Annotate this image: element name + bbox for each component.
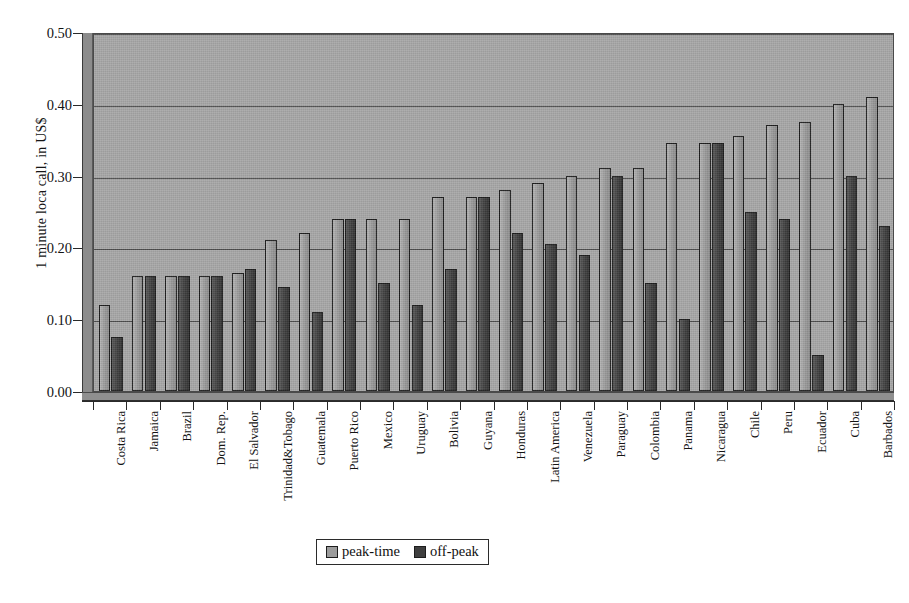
plot-top-face [82,20,894,33]
bar-peak-time [566,176,578,391]
y-axis-tick-label: 0.20 [14,241,72,256]
x-axis-tick-label: Honduras [515,411,528,460]
bar-off-peak [345,219,357,391]
bar-off-peak [278,287,290,391]
bar-peak-time [132,276,144,391]
bar-peak-time [466,197,478,391]
bar-peak-time [199,276,211,391]
x-axis-tickmark [427,401,428,410]
y-axis-tick-label: 0.00 [14,385,72,400]
x-axis-tick-label: Trinidad&Tobago [282,411,295,501]
x-axis-tickmark [861,401,862,410]
x-axis-tick-label: Costa Rica [115,411,128,466]
bar-group [599,34,623,391]
x-axis-tick-label: Mexico [382,411,395,449]
bar-off-peak [745,212,757,392]
x-axis-tick-label: Colombia [649,411,662,460]
plot-floor [82,392,894,401]
bar-off-peak [312,312,324,391]
bar-peak-time [633,168,645,391]
x-axis-tick-label: Peru [782,411,795,434]
x-axis-tick-label: Dom. Rep. [215,411,228,466]
legend-label-off-peak: off-peak [430,543,479,560]
bar-group [199,34,223,391]
x-axis-tickmark [527,401,528,410]
x-axis-tickmark [894,401,895,410]
x-axis-tick-label: Jamaica [148,411,161,451]
x-axis-tick-label: Guatemala [315,411,328,465]
x-axis-tickmark [560,401,561,410]
bar-group [866,34,890,391]
bar-off-peak [512,233,524,391]
bar-group [466,34,490,391]
y-axis-tickmark [73,33,82,34]
bar-peak-time [532,183,544,391]
x-axis-tick-label: Venezuela [582,411,595,462]
bar-peak-time [733,136,745,391]
bar-group [833,34,857,391]
bar-group [799,34,823,391]
x-axis-tickmark [293,401,294,410]
bar-group [633,34,657,391]
x-axis-tickmark [260,401,261,410]
y-axis-tick-labels: 0.000.100.200.300.400.50 [18,0,82,603]
bar-peak-time [232,273,244,391]
bar-off-peak [478,197,490,391]
x-axis-tick-label: Bolivia [448,411,461,448]
x-axis-tick-label: Puerto Rico [348,411,361,470]
bar-group [332,34,356,391]
bar-peak-time [99,305,111,391]
bar-off-peak [111,337,123,391]
x-axis-tickmark [93,401,94,410]
bar-group [566,34,590,391]
y-axis-tickmark [73,320,82,321]
x-axis-tickmark [627,401,628,410]
x-axis-tickmark [827,401,828,410]
y-axis-tickmark [73,105,82,106]
x-axis-tick-label: Chile [749,411,762,438]
x-axis-tickmark [761,401,762,410]
bars-layer [94,34,893,391]
bar-off-peak [879,226,891,391]
bar-off-peak [712,143,724,391]
x-axis-tick-label: Cuba [849,411,862,437]
x-axis-tick-label: Nicaragua [715,411,728,462]
x-axis-tickmarks [82,401,894,411]
bar-peak-time [699,143,711,391]
bar-group [532,34,556,391]
bar-peak-time [265,240,277,391]
bar-off-peak [779,219,791,391]
bar-off-peak [145,276,157,391]
x-axis-tickmark [327,401,328,410]
bar-group [165,34,189,391]
x-axis-tickmark [360,401,361,410]
bar-off-peak [846,176,858,391]
y-axis-tick-label: 0.40 [14,98,72,113]
x-axis-tick-label: Paraguay [615,411,628,458]
bar-off-peak [445,269,457,391]
bar-off-peak [679,319,691,391]
y-axis-tick-label: 0.50 [14,26,72,41]
x-axis-tick-label: Ecuador [816,411,829,453]
bar-group [766,34,790,391]
bar-peak-time [866,97,878,391]
x-axis-tickmark [694,401,695,410]
x-axis-tickmark [193,401,194,410]
bar-peak-time [666,143,678,391]
bar-chart: 1 minute loca call, in US$ 0.000.100.200… [0,0,909,603]
bar-group [666,34,690,391]
bar-group [499,34,523,391]
x-axis-tick-label: Barbados [882,411,895,458]
x-axis-tick-label: Guyana [482,411,495,450]
bar-peak-time [366,219,378,391]
bar-peak-time [165,276,177,391]
x-axis-tickmark [227,401,228,410]
y-axis-tickmark [73,392,82,393]
bar-group [432,34,456,391]
bar-off-peak [245,269,257,391]
x-axis-tickmark [794,401,795,410]
bar-peak-time [766,125,778,391]
legend-entry-peak-time: peak-time [326,543,400,560]
bar-group [733,34,757,391]
plot-area [93,33,894,392]
